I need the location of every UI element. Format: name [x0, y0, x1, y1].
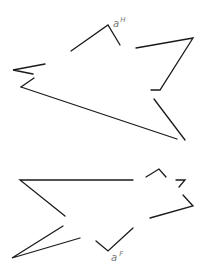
- figure-bottom: [12, 169, 193, 258]
- outline-segment: [154, 99, 185, 140]
- outline-segment: [20, 180, 133, 216]
- label-top-base: a: [113, 18, 119, 29]
- label-bottom: aF: [111, 250, 124, 263]
- diagram-canvas: aH aF: [0, 0, 207, 273]
- label-top: aH: [113, 16, 126, 29]
- outline-segment: [13, 64, 45, 74]
- outline-segment: [96, 228, 133, 251]
- label-bottom-sup: F: [119, 250, 124, 258]
- outline-segment: [176, 180, 185, 187]
- outline-segment: [21, 87, 177, 139]
- outline-segment: [21, 78, 34, 87]
- figure-top: [13, 25, 193, 140]
- outline-segment: [146, 169, 166, 177]
- label-top-sup: H: [120, 16, 126, 24]
- label-bottom-base: a: [111, 252, 117, 263]
- outline-segment: [150, 195, 193, 218]
- outline-segment: [136, 38, 193, 90]
- outline-segment: [12, 226, 80, 258]
